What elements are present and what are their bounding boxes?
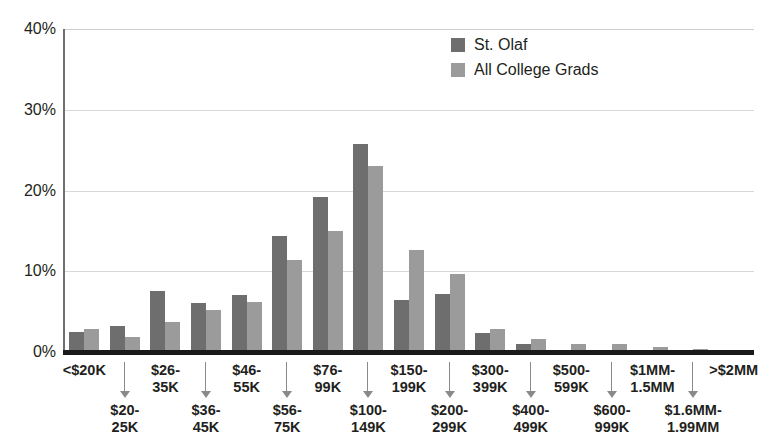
bar bbox=[165, 322, 180, 352]
bar bbox=[191, 303, 206, 352]
bar bbox=[490, 329, 505, 352]
bar bbox=[353, 144, 368, 352]
x-axis-tick-labels: <$20K$20-25K$26-35K$36-45K$46-55K$56-75K… bbox=[64, 358, 754, 446]
legend-item-label: St. Olaf bbox=[474, 37, 527, 53]
x-axis-line bbox=[63, 350, 754, 355]
x-axis-tick-label: $56-75K bbox=[250, 402, 324, 436]
income-distribution-bar-chart: 0%10%20%30%40% St. Olaf All College Grad… bbox=[0, 0, 769, 446]
bar-group bbox=[308, 29, 349, 352]
bar bbox=[394, 300, 409, 352]
bar bbox=[232, 295, 247, 352]
bar bbox=[84, 329, 99, 352]
x-axis-tick-label: $300-399K bbox=[453, 362, 527, 396]
y-axis-tick-label: 40% bbox=[0, 21, 56, 37]
bar-group bbox=[186, 29, 227, 352]
bar-group bbox=[145, 29, 186, 352]
x-axis-tick-label: $400-499K bbox=[494, 402, 568, 436]
x-axis-tick-label: $1.6MM-1.99MM bbox=[656, 402, 730, 436]
x-axis-tick-label: $76-99K bbox=[291, 362, 365, 396]
bar-group bbox=[389, 29, 430, 352]
bar bbox=[409, 250, 424, 352]
bar-group bbox=[714, 29, 755, 352]
bar bbox=[435, 294, 450, 352]
bar-group bbox=[267, 29, 308, 352]
bar-group bbox=[64, 29, 105, 352]
bar-group bbox=[226, 29, 267, 352]
x-axis-tick-label: $500-599K bbox=[534, 362, 608, 396]
y-axis-tick-label: 20% bbox=[0, 183, 56, 199]
bar bbox=[247, 302, 262, 352]
x-axis-tick-label: $150-199K bbox=[372, 362, 446, 396]
legend-item-label: All College Grads bbox=[474, 62, 599, 78]
x-axis-tick-label: $36-45K bbox=[169, 402, 243, 436]
bar bbox=[110, 326, 125, 352]
x-axis-tick-label: <$20K bbox=[47, 362, 121, 379]
legend-swatch-icon bbox=[451, 38, 465, 52]
bar-groups bbox=[64, 29, 754, 352]
x-axis-tick-label: $1MM-1.5MM bbox=[616, 362, 690, 396]
legend-swatch-icon bbox=[451, 63, 465, 77]
bar-group bbox=[348, 29, 389, 352]
x-axis-tick-label: >$2MM bbox=[697, 362, 769, 379]
bar bbox=[368, 166, 383, 352]
bar bbox=[69, 332, 84, 352]
bar bbox=[450, 274, 465, 352]
y-axis-tick-label: 10% bbox=[0, 263, 56, 279]
x-axis-tick-label: $100-149K bbox=[331, 402, 405, 436]
bar-group bbox=[673, 29, 714, 352]
x-axis-tick-label: $200-299K bbox=[413, 402, 487, 436]
bar bbox=[313, 197, 328, 352]
bar-group bbox=[105, 29, 146, 352]
legend: St. Olaf All College Grads bbox=[451, 32, 599, 82]
bar bbox=[206, 310, 221, 352]
bar bbox=[328, 231, 343, 352]
plot-area bbox=[64, 29, 754, 352]
x-axis-tick-label: $600-999K bbox=[575, 402, 649, 436]
bar-group bbox=[632, 29, 673, 352]
y-axis-tick-label: 30% bbox=[0, 102, 56, 118]
x-axis-tick-label: $20-25K bbox=[88, 402, 162, 436]
bar bbox=[150, 291, 165, 352]
x-axis-tick-label: $46-55K bbox=[210, 362, 284, 396]
bar bbox=[287, 260, 302, 352]
y-axis-tick-label: 0% bbox=[0, 344, 56, 360]
legend-item: St. Olaf bbox=[451, 32, 599, 57]
x-axis-tick-label: $26-35K bbox=[128, 362, 202, 396]
legend-item: All College Grads bbox=[451, 57, 599, 82]
bar bbox=[272, 236, 287, 352]
